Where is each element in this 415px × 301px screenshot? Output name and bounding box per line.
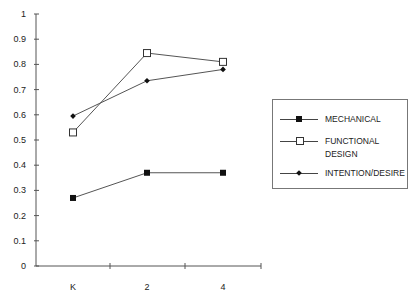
open-square-marker-icon bbox=[70, 129, 77, 136]
series-line bbox=[73, 69, 223, 116]
series-line bbox=[73, 53, 223, 132]
filled-square-marker-icon bbox=[70, 195, 76, 201]
legend-label: DESIGN bbox=[325, 148, 405, 160]
x-tick-label: 4 bbox=[220, 282, 225, 292]
y-tick-label: 0 bbox=[21, 261, 26, 271]
y-tick-label: 0.2 bbox=[13, 211, 26, 221]
legend-label: FUNCTIONAL bbox=[325, 135, 405, 147]
filled-square-marker-icon bbox=[144, 170, 150, 176]
legend-label: INTENTION/DESIRE bbox=[325, 167, 405, 179]
series-line bbox=[73, 173, 223, 198]
open-square-marker-icon bbox=[144, 50, 151, 57]
filled-square-marker-icon bbox=[296, 116, 302, 122]
filled-diamond-marker-icon bbox=[144, 78, 150, 84]
open-square-marker-icon bbox=[220, 58, 227, 65]
chart-container: 00.10.20.30.40.50.60.70.80.91K24 MECHANI… bbox=[0, 0, 415, 301]
y-tick-label: 0.1 bbox=[13, 236, 26, 246]
y-tick-label: 0.4 bbox=[13, 160, 26, 170]
x-tick-label: K bbox=[70, 282, 76, 292]
y-tick-label: 0.5 bbox=[13, 135, 26, 145]
filled-diamond-marker-icon bbox=[296, 170, 302, 176]
y-tick-label: 0.6 bbox=[13, 110, 26, 120]
legend-label: MECHANICAL bbox=[325, 113, 405, 125]
y-tick-label: 0.3 bbox=[13, 185, 26, 195]
y-tick-label: 0.9 bbox=[13, 34, 26, 44]
open-square-marker-icon bbox=[296, 137, 304, 145]
filled-diamond-marker-icon bbox=[220, 67, 226, 73]
filled-square-marker-icon bbox=[220, 170, 226, 176]
legend: MECHANICAL FUNCTIONAL DESIGN INTENTION/D… bbox=[272, 99, 408, 189]
filled-diamond-marker-icon bbox=[70, 113, 76, 119]
y-tick-label: 1 bbox=[21, 9, 26, 19]
y-tick-label: 0.7 bbox=[13, 85, 26, 95]
y-tick-label: 0.8 bbox=[13, 59, 26, 69]
x-tick-label: 2 bbox=[144, 282, 149, 292]
